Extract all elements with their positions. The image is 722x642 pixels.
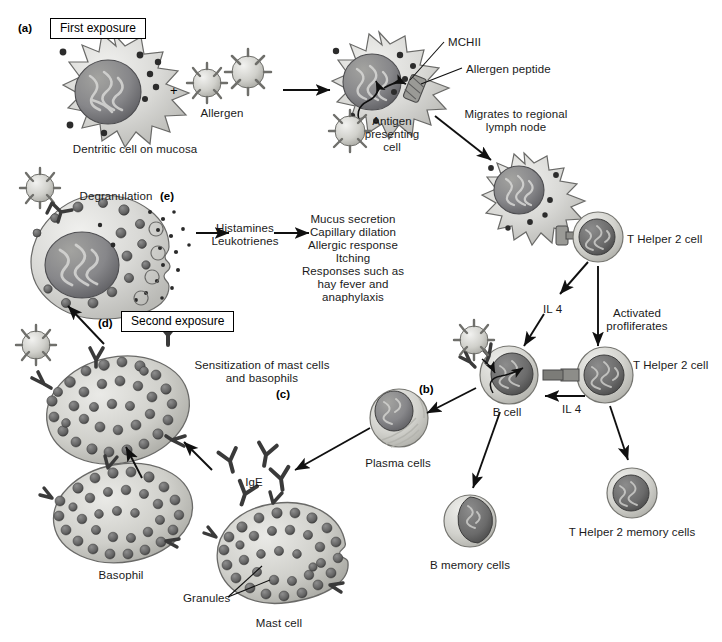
allergen-particle-2: [225, 49, 271, 95]
arrow-bcell-to-bmemory: [473, 412, 500, 488]
leader-granules-b: [228, 580, 270, 597]
allergen-peptide-label: Allergen peptide: [466, 63, 551, 76]
surface-ige-receptors: [204, 492, 343, 592]
allergen-particle-6: [454, 320, 494, 360]
arrow-bcell-to-plasma: [427, 388, 476, 413]
first-exposure-box: First exposure: [50, 18, 146, 39]
surface-ige-receptors: [32, 348, 185, 446]
panel-tag-e: (e): [160, 190, 174, 202]
ige-antibody-1: [218, 448, 241, 474]
antigen-presenting-cell-label: Antigen presenting cell: [365, 115, 420, 154]
leader-mchii: [410, 42, 444, 80]
leader-allergen-peptide: [421, 68, 462, 84]
granules: [47, 357, 177, 457]
arrow-il4-to-bcell: [524, 314, 544, 346]
b-memory-cell: [444, 495, 496, 547]
dendritic-cell-label: Dentritic cell on mucosa: [73, 143, 197, 156]
mhcii-complex: [403, 74, 427, 103]
panel-tag-a: (a): [18, 22, 32, 34]
panel-tag-b: (b): [419, 383, 434, 395]
allergen-particle-4: [20, 168, 72, 222]
surface-ige-receptors: [40, 456, 179, 547]
lymph-node-dendritic-cell: [482, 153, 585, 245]
il4-label-lower: IL 4: [562, 403, 581, 416]
t-helper-2-cell-lower: [543, 347, 633, 403]
plasma-cells-label: Plasma cells: [365, 457, 431, 470]
panel-tag-c: (c): [276, 388, 290, 400]
ige-antibodies: [160, 325, 291, 507]
allergy-pathway-diagram: (a) (e) (d) (c) (b) First exposure Secon…: [0, 0, 722, 642]
mchii-label: MCHII: [448, 36, 481, 49]
b-cell-label: B cell: [493, 406, 522, 419]
il4-label-upper: IL 4: [543, 303, 562, 316]
tcr-mhc-bridge-lower: [543, 369, 579, 381]
granules: [33, 198, 150, 308]
basophil-label: Basophil: [99, 569, 144, 582]
arrow-plasma-to-ige: [295, 428, 370, 470]
allergen-label: Allergen: [201, 107, 244, 120]
b-memory-cells-label: B memory cells: [430, 559, 510, 572]
allergen-particles: [16, 49, 494, 365]
sensitized-mast-cell: [32, 343, 199, 477]
mast-cell-label: Mast cell: [256, 617, 302, 630]
sensitization-label: Sensitization of mast cells and basophil…: [194, 359, 329, 385]
ige-bridge-receptor: [47, 203, 72, 222]
arrow-basophil-up: [126, 447, 142, 478]
t-helper-2-cell-top: [573, 212, 623, 262]
leader-lines: [228, 42, 462, 597]
arrow-ige-to-mastcell: [184, 442, 212, 470]
plasma-cell: [370, 389, 428, 447]
t-helper-2-cell-label-lower: T Helper 2 cell: [633, 359, 708, 372]
rough-er-striations: [382, 398, 424, 447]
migrates-label: Migrates to regional lymph node: [465, 108, 568, 134]
effects-label: Mucus secretion Capillary dilation Aller…: [302, 213, 404, 304]
granules-label: Granules: [183, 592, 230, 605]
leader-granules-a: [228, 566, 262, 597]
mast-cell-degranulating: [31, 195, 191, 319]
t-helper-2-memory-cells-label: T Helper 2 memory cells: [569, 526, 696, 539]
allergen-particle-1: [187, 63, 227, 103]
ige-antibody-3: [271, 467, 292, 491]
mediators-label: Histamines Leukotrienes: [211, 222, 278, 248]
arrow-th2-to-memory: [610, 406, 628, 460]
b-cell: [460, 344, 538, 404]
activated-proliferates-label: Activated profliferates: [606, 307, 667, 333]
basophil: [40, 453, 200, 574]
granules: [54, 467, 184, 559]
released-mediators: [98, 210, 191, 302]
vesicle-dots: [60, 49, 162, 137]
b-cell-receptors: [460, 344, 491, 367]
panel-tag-d: (d): [98, 317, 113, 329]
degranulation-label: Degranulation: [80, 190, 153, 203]
t-helper-2-cell-label-top: T Helper 2 cell: [627, 233, 702, 246]
t-helper-2-memory-cell: [607, 468, 657, 518]
ige-antibody-2: [255, 443, 277, 468]
second-exposure-box: Second exposure: [121, 311, 234, 332]
degranulation-pockets: [134, 222, 165, 305]
arrow-th2-to-il4: [560, 262, 588, 294]
mhc-tcr-bridge: [556, 226, 582, 245]
allergen-particle-5: [16, 325, 56, 365]
ige-label: IgE: [245, 476, 263, 489]
plus-sign: +: [170, 83, 178, 98]
granules: [219, 508, 343, 601]
